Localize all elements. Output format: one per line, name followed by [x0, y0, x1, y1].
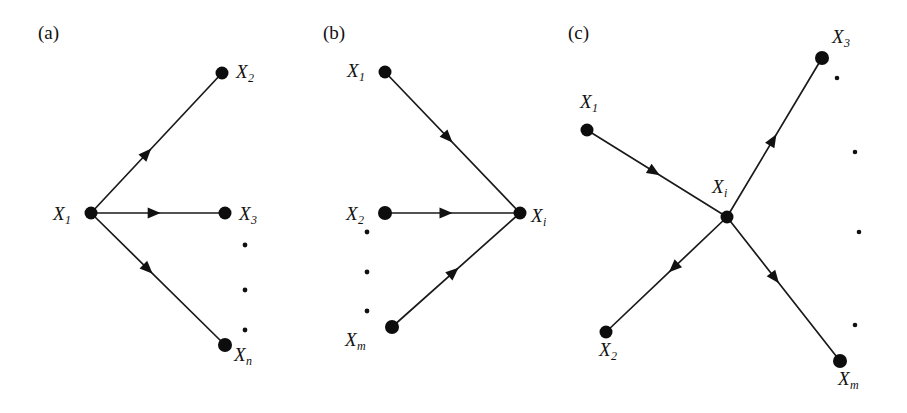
graph-node-X2[interactable] — [216, 67, 229, 80]
edge-X1-to-X2 — [91, 73, 222, 213]
node-label-base-Xn: X — [234, 344, 246, 365]
node-label-X1: X1 — [347, 61, 365, 80]
node-label-base-X2: X — [599, 339, 611, 360]
graph-node-X1[interactable] — [85, 207, 98, 220]
graph-node-X1[interactable] — [379, 66, 392, 79]
node-label-base-Xi: X — [712, 176, 724, 197]
node-label-base-X2: X — [236, 61, 248, 82]
node-label-base-X3: X — [239, 203, 251, 224]
edge-line-X1-Xn — [91, 213, 225, 345]
edge-X1-to-Xi — [385, 72, 520, 213]
node-label-base-Xm: X — [345, 329, 357, 350]
node-label-base-X1: X — [580, 91, 592, 112]
node-label-subscript-X3: 3 — [844, 36, 850, 50]
ellipsis-dot-2 — [365, 270, 370, 275]
panel-a-graph — [0, 0, 305, 413]
edge-Xi-to-X2 — [606, 217, 727, 332]
graph-node-X3[interactable] — [815, 51, 829, 65]
node-label-X1: X1 — [53, 204, 71, 223]
node-label-X1: X1 — [580, 92, 598, 111]
arrowhead-Xi-to-X3 — [765, 134, 776, 148]
edge-X1-to-Xi — [587, 130, 727, 217]
ellipsis-dot-4 — [853, 323, 858, 328]
graph-node-Xi[interactable] — [514, 207, 527, 220]
node-label-subscript-Xm: m — [850, 378, 859, 392]
node-label-base-X2: X — [346, 203, 358, 224]
arrowhead-X1-to-Xi — [646, 164, 660, 175]
panel-b-graph — [305, 0, 560, 413]
ellipsis-dot-3 — [365, 309, 370, 314]
ellipsis-dot-3 — [243, 328, 248, 333]
node-label-subscript-Xi: i — [724, 186, 727, 200]
node-label-base-X1: X — [53, 203, 65, 224]
edge-X1-to-X3 — [91, 208, 225, 219]
node-label-X2: X2 — [346, 204, 364, 223]
node-label-subscript-X2: 2 — [248, 71, 254, 85]
graph-node-X2[interactable] — [600, 326, 613, 339]
node-label-subscript-Xn: n — [246, 354, 252, 368]
node-label-Xm: Xm — [838, 369, 858, 388]
node-label-base-X3: X — [832, 26, 844, 47]
node-label-subscript-X2: 2 — [611, 349, 617, 363]
node-label-Xi: Xi — [712, 177, 727, 196]
figure-canvas: (a) X2X3XnX1 (b) X1X2XmXi (c) X1X2X3XmXi — [0, 0, 907, 413]
ellipsis-dot-2 — [853, 150, 858, 155]
graph-node-Xn[interactable] — [218, 338, 232, 352]
graph-node-X2[interactable] — [378, 206, 392, 220]
edge-X2-to-Xi — [385, 208, 520, 219]
node-label-X3: X3 — [239, 204, 257, 223]
node-label-subscript-X3: 3 — [251, 213, 257, 227]
ellipsis-dot-1 — [835, 76, 840, 81]
panel-b: (b) X1X2XmXi — [305, 0, 560, 413]
node-label-X2: X2 — [236, 62, 254, 81]
node-label-subscript-X1: 1 — [592, 101, 598, 115]
ellipsis-dot-2 — [243, 288, 248, 293]
edge-line-Xi-X2 — [606, 217, 727, 332]
node-label-subscript-X1: 1 — [65, 213, 71, 227]
node-label-X2: X2 — [599, 340, 617, 359]
graph-node-Xi[interactable] — [721, 211, 734, 224]
arrowhead-X2-to-Xi — [440, 208, 453, 219]
edge-Xi-to-Xm — [727, 217, 840, 361]
graph-node-X1[interactable] — [581, 124, 594, 137]
edge-line-Xi-Xm — [727, 217, 840, 361]
edge-X1-to-Xn — [91, 213, 225, 345]
ellipsis-dot-1 — [243, 243, 248, 248]
panel-c: (c) X1X2X3XmXi — [560, 0, 907, 413]
graph-node-X3[interactable] — [219, 207, 232, 220]
node-label-base-X1: X — [347, 60, 359, 81]
node-label-base-Xi: X — [531, 205, 543, 226]
node-label-Xm: Xm — [345, 330, 365, 349]
node-label-Xn: Xn — [234, 345, 252, 364]
edge-Xm-to-Xi — [392, 213, 520, 327]
ellipsis-dot-3 — [857, 230, 862, 235]
arrowhead-X1-to-X3 — [148, 208, 161, 219]
arrowhead-Xi-to-Xm — [767, 270, 779, 284]
node-label-subscript-Xi: i — [543, 215, 546, 229]
graph-node-Xm[interactable] — [833, 354, 847, 368]
node-label-X3: X3 — [832, 27, 850, 46]
node-label-subscript-X2: 2 — [358, 213, 364, 227]
node-label-subscript-Xm: m — [357, 339, 366, 353]
edge-Xi-to-X3 — [727, 58, 822, 217]
node-label-Xi: Xi — [531, 206, 546, 225]
ellipsis-dot-1 — [365, 230, 370, 235]
node-label-subscript-X1: 1 — [359, 70, 365, 84]
graph-node-Xm[interactable] — [385, 320, 399, 334]
panel-a: (a) X2X3XnX1 — [0, 0, 305, 413]
node-label-base-Xm: X — [838, 368, 850, 389]
edge-line-X1-X2 — [91, 73, 222, 213]
